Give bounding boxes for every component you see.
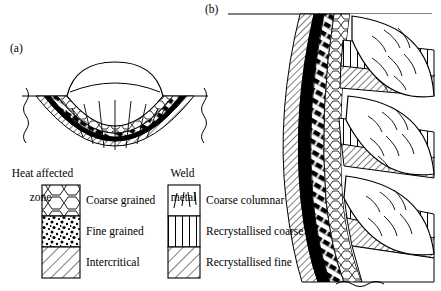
swatch-recrystallised-fine [168,247,200,278]
swatch-recrystallised-coarse [168,216,200,247]
weld-microstructure-diagram [0,0,441,291]
swatch-intercritical [42,247,80,278]
wm-title-line1: Weld [171,167,195,179]
legend-label-recrystallised-coarse: Recrystallised coarse [206,225,303,237]
legend-title-heat-affected-zone: Heat affected zone [6,155,73,203]
panel-label-a: (a) [10,42,23,54]
legend-label-intercritical: Intercritical [86,256,140,268]
wm-title-line2: metal [171,191,197,203]
haz-title-line2: zone [30,191,52,203]
legend-label-coarse-grained: Coarse grained [86,194,155,206]
panel-label-b: (b) [205,3,218,15]
legend-label-fine-grained: Fine grained [86,225,144,237]
panel-a-weld-cross-section [22,62,208,150]
swatch-fine-grained [42,216,80,247]
haz-title-line1: Heat affected [12,167,73,179]
figure-canvas: (a) (b) Heat affected zone Weld metal Co… [0,0,441,291]
panel-b-multipass-weld [228,14,434,287]
legend-label-coarse-columnar: Coarse columnar [206,194,284,206]
legend-label-recrystallised-fine: Recrystallised fine [206,256,292,268]
legend-title-weld-metal: Weld metal [165,155,196,203]
